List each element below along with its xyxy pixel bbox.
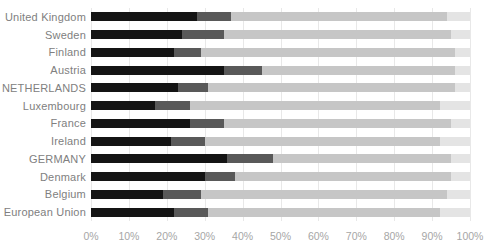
category-label: GERMANY <box>0 153 86 165</box>
segment-black <box>91 208 174 217</box>
segment-lighter-gray <box>440 137 470 146</box>
chart-row: Denmark <box>0 168 470 186</box>
chart-row: Belgium <box>0 186 470 204</box>
segment-lighter-gray <box>451 172 470 181</box>
segment-light-gray <box>262 66 455 75</box>
category-label: France <box>0 117 86 129</box>
bar-track <box>91 101 470 110</box>
segment-light-gray <box>205 137 440 146</box>
chart-row: Sweden <box>0 26 470 44</box>
segment-dark-gray <box>205 172 235 181</box>
category-label: Austria <box>0 64 86 76</box>
segment-black <box>91 48 174 57</box>
category-label: Ireland <box>0 135 86 147</box>
x-axis-tick-label: 100% <box>457 230 484 242</box>
segment-dark-gray <box>174 48 201 57</box>
segment-light-gray <box>208 208 439 217</box>
segment-lighter-gray <box>455 48 470 57</box>
segment-black <box>91 172 205 181</box>
segment-dark-gray <box>224 66 262 75</box>
segment-dark-gray <box>155 101 189 110</box>
segment-light-gray <box>273 154 451 163</box>
x-axis-tick-label: 10% <box>118 230 139 242</box>
bar-track <box>91 172 470 181</box>
x-axis-tick-label: 90% <box>422 230 443 242</box>
segment-black <box>91 190 163 199</box>
x-axis-tick-label: 40% <box>232 230 253 242</box>
segment-lighter-gray <box>447 190 470 199</box>
segment-black <box>91 137 171 146</box>
x-axis: 0%10%20%30%40%50%60%70%80%90%100% <box>91 230 470 246</box>
segment-light-gray <box>201 48 455 57</box>
segment-dark-gray <box>227 154 272 163</box>
segment-light-gray <box>224 119 451 128</box>
segment-dark-gray <box>163 190 201 199</box>
x-axis-tick-label: 80% <box>384 230 405 242</box>
segment-black <box>91 119 190 128</box>
segment-black <box>91 12 197 21</box>
x-axis-tick-label: 50% <box>270 230 291 242</box>
chart-row: Finland <box>0 44 470 62</box>
bar-track <box>91 30 470 39</box>
segment-lighter-gray <box>455 83 470 92</box>
category-label: Denmark <box>0 171 86 183</box>
bar-track <box>91 83 470 92</box>
x-axis-tick-label: 30% <box>194 230 215 242</box>
category-label: European Union <box>0 206 86 218</box>
segment-dark-gray <box>174 208 208 217</box>
chart-row: France <box>0 115 470 133</box>
segment-light-gray <box>208 83 454 92</box>
chart-row: NETHERLANDS <box>0 79 470 97</box>
x-axis-tick-label: 60% <box>308 230 329 242</box>
category-label: Luxembourg <box>0 100 86 112</box>
chart-row: Luxembourg <box>0 97 470 115</box>
segment-dark-gray <box>182 30 224 39</box>
category-label: NETHERLANDS <box>0 82 86 94</box>
chart-row: Austria <box>0 61 470 79</box>
bar-track <box>91 48 470 57</box>
segment-light-gray <box>235 172 451 181</box>
segment-dark-gray <box>178 83 208 92</box>
category-label: Finland <box>0 46 86 58</box>
segment-black <box>91 66 224 75</box>
segment-black <box>91 83 178 92</box>
segment-lighter-gray <box>440 208 470 217</box>
stacked-bar-chart: United KingdomSwedenFinlandAustriaNETHER… <box>0 0 492 252</box>
chart-row: GERMANY <box>0 150 470 168</box>
segment-lighter-gray <box>451 119 470 128</box>
bar-track <box>91 12 470 21</box>
chart-row: United Kingdom <box>0 8 470 26</box>
gridline <box>470 8 471 221</box>
bar-track <box>91 119 470 128</box>
segment-lighter-gray <box>451 154 470 163</box>
bar-track <box>91 208 470 217</box>
chart-rows: United KingdomSwedenFinlandAustriaNETHER… <box>0 8 470 221</box>
bar-track <box>91 190 470 199</box>
segment-dark-gray <box>171 137 205 146</box>
segment-lighter-gray <box>455 66 470 75</box>
bar-track <box>91 137 470 146</box>
segment-light-gray <box>231 12 447 21</box>
segment-light-gray <box>190 101 440 110</box>
segment-light-gray <box>224 30 451 39</box>
bar-track <box>91 154 470 163</box>
segment-light-gray <box>201 190 447 199</box>
segment-dark-gray <box>190 119 224 128</box>
segment-lighter-gray <box>447 12 470 21</box>
segment-black <box>91 154 227 163</box>
x-axis-tick-label: 0% <box>83 230 98 242</box>
segment-lighter-gray <box>440 101 470 110</box>
x-axis-tick-label: 70% <box>346 230 367 242</box>
segment-black <box>91 101 155 110</box>
chart-row: Ireland <box>0 132 470 150</box>
bar-track <box>91 66 470 75</box>
chart-row: European Union <box>0 203 470 221</box>
segment-dark-gray <box>197 12 231 21</box>
category-label: Belgium <box>0 188 86 200</box>
category-label: Sweden <box>0 29 86 41</box>
category-label: United Kingdom <box>0 11 86 23</box>
x-axis-tick-label: 20% <box>156 230 177 242</box>
segment-black <box>91 30 182 39</box>
segment-lighter-gray <box>451 30 470 39</box>
